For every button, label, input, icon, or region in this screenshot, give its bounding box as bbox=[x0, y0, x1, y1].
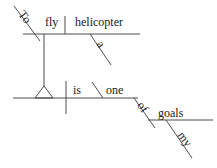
word-fly: fly bbox=[45, 16, 58, 28]
article-a-slant-line bbox=[90, 34, 111, 65]
word-is: is bbox=[73, 84, 81, 96]
pedestal-triangle bbox=[35, 86, 53, 98]
predicate-nominative-slant-line bbox=[92, 82, 103, 98]
word-goals: goals bbox=[158, 107, 183, 119]
sentence-diagram: To fly helicopter a is one of goals my bbox=[0, 0, 217, 168]
word-one: one bbox=[106, 84, 123, 96]
word-helicopter: helicopter bbox=[75, 16, 123, 28]
